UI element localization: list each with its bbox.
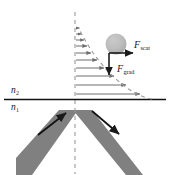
f-scat-label: Fscat: [134, 40, 150, 50]
particle-sphere: [106, 34, 127, 55]
f-grad-subscript: grad: [123, 68, 134, 75]
reflected-beam: [73, 110, 143, 175]
refractive-index-n2-label: n2: [11, 86, 19, 96]
refractive-index-n1-label: n1: [11, 103, 19, 113]
f-scat-subscript: scat: [140, 44, 150, 51]
optical-trapping-figure: n2 n1 Fscat Fgrad: [0, 0, 170, 175]
f-grad-label: Fgrad: [117, 64, 134, 74]
n2-subscript: 2: [16, 90, 19, 96]
incident-beam: [16, 110, 78, 175]
n1-subscript: 1: [16, 107, 19, 113]
figure-canvas: [0, 0, 170, 175]
